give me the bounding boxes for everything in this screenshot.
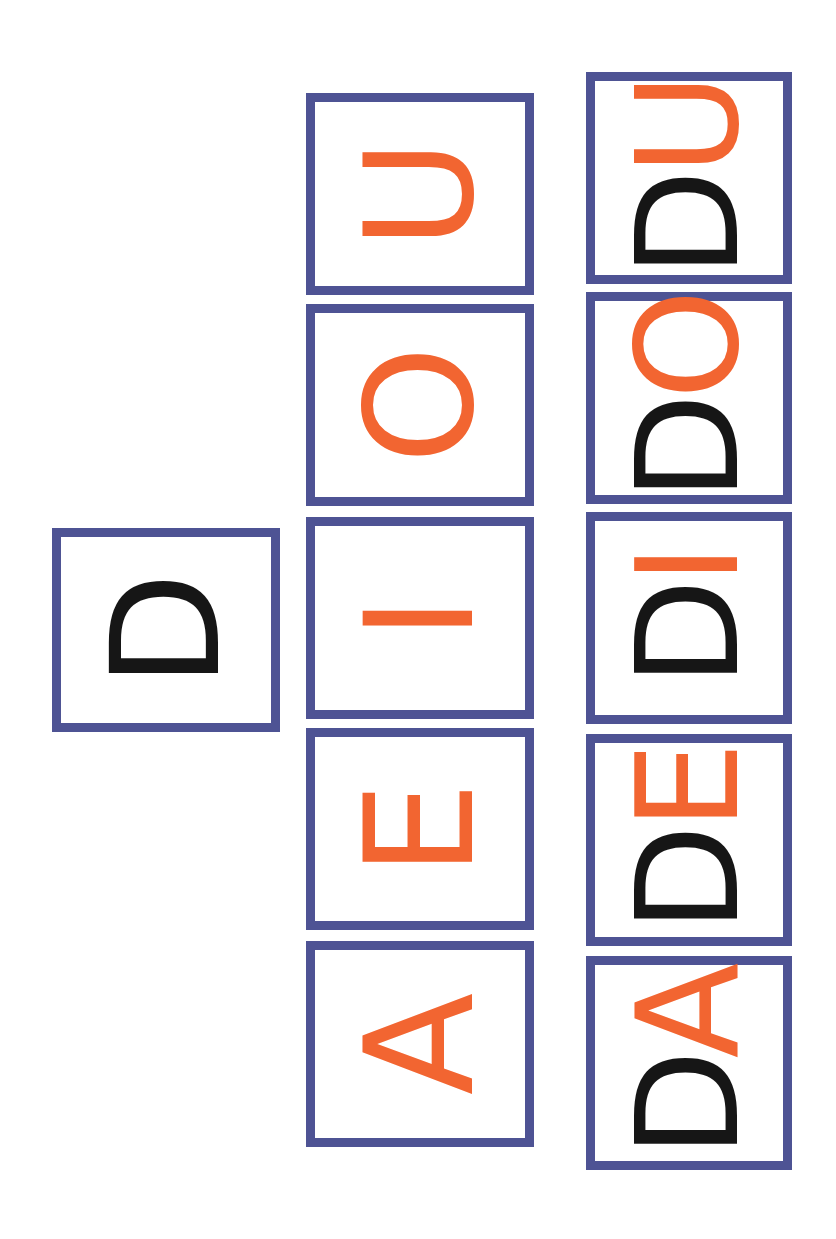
syllable-consonant: D — [607, 1058, 770, 1157]
syllable-vowel: E — [607, 748, 770, 830]
vowel-card-o: O — [306, 304, 534, 506]
syllable-card-di: DI — [586, 512, 792, 724]
vowel-card-a: A — [306, 941, 534, 1147]
syllable-text: DE — [619, 748, 759, 932]
syllable-text: DI — [619, 549, 759, 686]
syllable-consonant: D — [607, 175, 770, 277]
vowel-letter: I — [345, 596, 495, 640]
syllable-consonant: D — [607, 399, 770, 501]
vowel-card-i: I — [306, 517, 534, 719]
consonant-card-d: D — [52, 528, 280, 732]
vowel-letter: O — [345, 346, 495, 464]
syllable-text: DO — [619, 295, 759, 501]
syllable-vowel: U — [607, 79, 770, 175]
syllable-text: DA — [619, 968, 759, 1157]
syllable-card-de: DE — [586, 734, 792, 946]
vowel-letter: A — [345, 993, 495, 1096]
vowel-card-e: E — [306, 728, 534, 930]
syllable-vowel: A — [607, 968, 770, 1058]
vowel-card-u: U — [306, 93, 534, 295]
syllable-consonant: D — [607, 830, 770, 932]
syllable-card-da: DA — [586, 956, 792, 1170]
syllable-vowel: I — [607, 549, 770, 584]
syllable-vowel: O — [607, 295, 770, 399]
vowel-letter: E — [345, 782, 495, 877]
consonant-letter: D — [91, 572, 241, 688]
syllable-card-do: DO — [586, 292, 792, 504]
syllable-consonant: D — [607, 585, 770, 687]
syllable-card-du: DU — [586, 72, 792, 284]
syllable-text: DU — [619, 79, 759, 277]
vowel-letter: U — [345, 139, 495, 249]
